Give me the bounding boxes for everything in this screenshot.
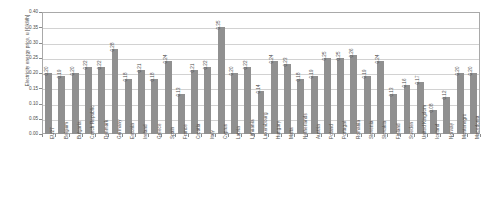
x-axis-category-label: Italy	[210, 130, 215, 139]
x-axis-category-label: Lithuania	[250, 119, 255, 139]
bar-value-label: 0.20	[455, 66, 460, 75]
bar-value-label: 0.19	[362, 69, 367, 78]
bar-value-label: 0.22	[83, 60, 88, 69]
x-axis-category-label: Estonia	[130, 123, 135, 139]
bar-rect	[204, 67, 211, 134]
x-axis-tick-mark	[480, 134, 481, 137]
bar-item: 0.20	[45, 12, 52, 134]
y-axis-tick-label: 0.20	[16, 70, 38, 75]
bar-item: 0.12	[443, 12, 450, 134]
bar-value-label: 0.20	[468, 66, 473, 75]
x-axis-category-label: Croatia	[196, 123, 201, 139]
y-axis-tick-label: 0.30	[16, 40, 38, 45]
x-axis-category-label: Montenegro	[462, 113, 467, 139]
bar-rect	[324, 58, 331, 134]
x-axis-category-label: Ireland	[143, 124, 148, 139]
bar-value-label: 0.16	[402, 79, 407, 88]
y-axis-tick-label: 0.25	[16, 55, 38, 60]
x-axis-category-label: Greece	[157, 123, 162, 139]
x-axis-tick-mark	[347, 134, 348, 137]
x-axis-category-label: Luxembourg	[263, 112, 268, 139]
x-axis-tick-mark	[188, 134, 189, 137]
bar-item: 0.24	[165, 12, 172, 134]
x-axis-tick-mark	[281, 134, 282, 137]
bar-item: 0.13	[390, 12, 397, 134]
x-axis-category-label: Slovakia	[382, 121, 387, 139]
x-axis-category-label: Hungary	[276, 121, 281, 139]
bar-item: 0.20	[231, 12, 238, 134]
x-axis-category-label: Iceland	[435, 123, 440, 139]
bar-value-label: 0.25	[336, 51, 341, 60]
bar-item: 0.22	[244, 12, 251, 134]
bar-item: 0.35	[218, 12, 225, 134]
x-axis-category-label: Denmark	[104, 120, 109, 139]
x-axis-label-group: EU27BelgiumBulgariaCzech RepublicDenmark…	[42, 139, 480, 199]
bar-item: 0.20	[72, 12, 79, 134]
x-axis-tick-mark	[148, 134, 149, 137]
bar-item: 0.19	[58, 12, 65, 134]
x-axis-tick-mark	[135, 134, 136, 137]
bar-item: 0.19	[364, 12, 371, 134]
bar-value-label: 0.13	[176, 88, 181, 97]
bar-value-label: 0.28	[110, 42, 115, 51]
bar-value-label: 0.25	[322, 51, 327, 60]
x-axis-category-label: Cyprus	[223, 124, 228, 139]
x-axis-category-label: Norway	[449, 123, 454, 139]
bar-rect	[284, 64, 291, 134]
bar-rect	[45, 73, 52, 134]
x-axis-tick-mark	[95, 134, 96, 137]
bar-value-label: 0.22	[203, 60, 208, 69]
bar-item: 0.18	[151, 12, 158, 134]
bar-value-label: 0.24	[269, 54, 274, 63]
bar-value-label: 0.19	[309, 69, 314, 78]
bar-value-label: 0.08	[429, 103, 434, 112]
x-axis-tick-mark	[294, 134, 295, 137]
y-axis-tick-label: 0.10	[16, 101, 38, 106]
y-axis-tick-label: 0.40	[16, 9, 38, 14]
bar-item: 0.25	[324, 12, 331, 134]
bar-item: 0.24	[377, 12, 384, 134]
y-axis-tick-label: 0.00	[16, 131, 38, 136]
bar-item: 0.21	[191, 12, 198, 134]
x-axis-category-label: Bulgaria	[77, 121, 82, 139]
x-axis-category-label: Czech Republic	[90, 105, 95, 139]
y-axis-tick-label: 0.35	[16, 25, 38, 30]
bar-rect	[165, 61, 172, 134]
bar-value-label: 0.22	[243, 60, 248, 69]
x-axis-category-label: Spain	[170, 127, 175, 139]
bar-value-label: 0.20	[70, 66, 75, 75]
x-axis-category-label: Romania	[356, 120, 361, 139]
bar-rect	[231, 73, 238, 134]
bar-value-label: 0.21	[190, 63, 195, 72]
bar-item: 0.21	[138, 12, 145, 134]
x-axis-category-label: Belgium	[64, 122, 69, 139]
bar-value-label: 0.13	[389, 88, 394, 97]
bar-item: 0.22	[98, 12, 105, 134]
x-axis-category-label: Germany	[117, 119, 122, 139]
bar-value-label: 0.12	[442, 91, 447, 100]
bar-item: 0.23	[284, 12, 291, 134]
x-axis-tick-mark	[387, 134, 388, 137]
x-axis-category-label: Latvia	[236, 126, 241, 139]
bar-rect	[218, 27, 225, 134]
x-axis-tick-mark	[55, 134, 56, 137]
bar-value-label: 0.17	[415, 76, 420, 85]
x-axis-category-label: Sweden	[409, 122, 414, 139]
x-axis-category-label: France	[183, 124, 188, 139]
x-axis-tick-mark	[427, 134, 428, 137]
x-axis-tick-mark	[334, 134, 335, 137]
y-axis-tick-label: 0.15	[16, 86, 38, 91]
bar-value-label: 0.26	[349, 48, 354, 57]
x-axis-category-label: Slovenia	[369, 121, 374, 139]
bar-item: 0.18	[125, 12, 132, 134]
x-axis-category-label: Austria	[316, 124, 321, 139]
bar-item: 0.16	[404, 12, 411, 134]
x-axis-category-label: Macedonia	[475, 116, 480, 139]
bar-value-label: 0.23	[283, 57, 288, 66]
x-axis-tick-mark	[241, 134, 242, 137]
bar-value-label: 0.19	[57, 69, 62, 78]
bar-value-label: 0.21	[137, 63, 142, 72]
bar-item: 0.22	[204, 12, 211, 134]
bar-value-label: 0.24	[163, 54, 168, 63]
x-axis-category-label: Poland	[329, 124, 334, 139]
